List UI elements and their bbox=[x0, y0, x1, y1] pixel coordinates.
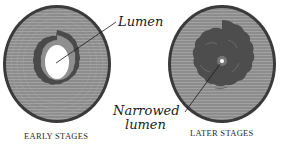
early-stage-artery bbox=[3, 5, 116, 123]
later-stage-artery bbox=[168, 5, 276, 123]
lumen-label: Lumen bbox=[118, 15, 163, 29]
later-stages-caption: LATER STAGES bbox=[190, 128, 254, 138]
narrowed-lumen-label-line2: lumen bbox=[125, 118, 166, 132]
early-stages-caption: EARLY STAGES bbox=[24, 131, 88, 141]
narrowed-lumen-label-line1: Narrowed bbox=[113, 104, 180, 118]
